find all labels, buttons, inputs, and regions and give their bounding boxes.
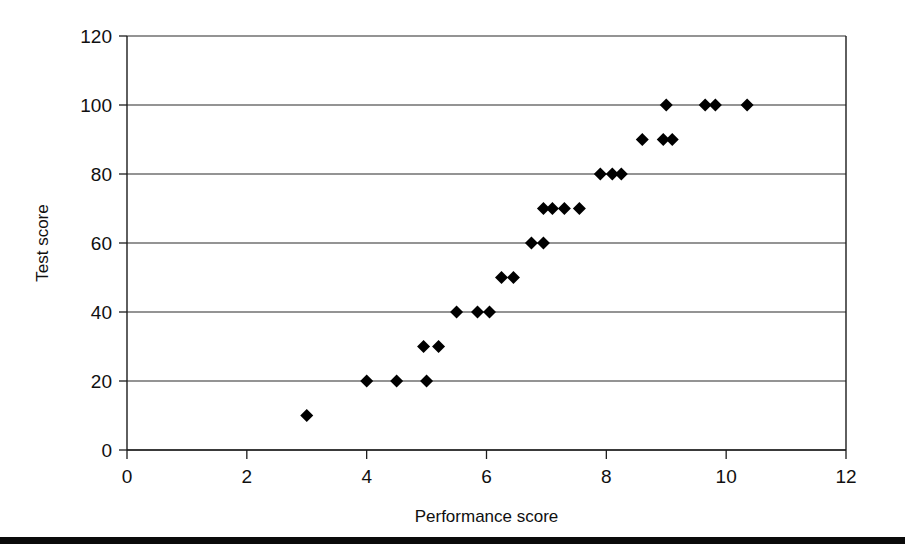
xtick-label-0: 0 — [122, 466, 133, 487]
xtick-label-8: 8 — [601, 466, 612, 487]
data-point-marker — [594, 168, 607, 181]
xtick-label-10: 10 — [716, 466, 737, 487]
scatter-chart: 020406080100120024681012Performance scor… — [0, 0, 905, 549]
data-point-marker — [417, 340, 430, 353]
xtick-label-4: 4 — [361, 466, 372, 487]
xtick-label-6: 6 — [481, 466, 492, 487]
data-point-marker — [558, 202, 571, 215]
data-point-marker — [471, 306, 484, 319]
data-point-marker — [495, 271, 508, 284]
ytick-label-60: 60 — [91, 233, 112, 254]
x-axis-title: Performance score — [415, 507, 559, 526]
data-point-marker — [660, 99, 673, 112]
data-points-group — [300, 99, 753, 423]
ytick-label-0: 0 — [101, 440, 112, 461]
data-point-marker — [741, 99, 754, 112]
ytick-label-100: 100 — [80, 95, 112, 116]
tick-marks-group — [119, 36, 846, 459]
data-point-marker — [507, 271, 520, 284]
data-point-marker — [525, 237, 538, 250]
ytick-label-120: 120 — [80, 26, 112, 47]
data-point-marker — [615, 168, 628, 181]
data-point-marker — [360, 375, 373, 388]
y-axis-title: Test score — [33, 204, 52, 281]
ytick-label-80: 80 — [91, 164, 112, 185]
data-point-marker — [483, 306, 496, 319]
data-point-marker — [420, 375, 433, 388]
data-point-marker — [537, 237, 550, 250]
page-bottom-rule — [0, 537, 905, 544]
data-point-marker — [390, 375, 403, 388]
data-point-marker — [709, 99, 722, 112]
ytick-label-40: 40 — [91, 302, 112, 323]
data-point-marker — [636, 133, 649, 146]
gridlines-group — [127, 36, 846, 450]
data-point-marker — [300, 409, 313, 422]
xtick-label-12: 12 — [835, 466, 856, 487]
data-point-marker — [573, 202, 586, 215]
tick-labels-group: 020406080100120024681012Performance scor… — [33, 26, 857, 526]
xtick-label-2: 2 — [242, 466, 253, 487]
data-point-marker — [450, 306, 463, 319]
ytick-label-20: 20 — [91, 371, 112, 392]
data-point-marker — [666, 133, 679, 146]
figure-panel: 020406080100120024681012Performance scor… — [0, 0, 905, 549]
data-point-marker — [432, 340, 445, 353]
data-point-marker — [546, 202, 559, 215]
